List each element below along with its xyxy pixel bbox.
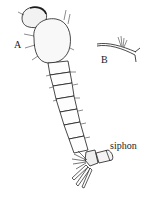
larva-illustration: [0, 0, 154, 204]
label-b: B: [101, 55, 108, 65]
abdominal-segment: [69, 136, 88, 153]
label-siphon: siphon: [110, 141, 137, 151]
larva-thorax: [34, 19, 71, 63]
label-a: A: [14, 40, 21, 50]
terminal-segment: [85, 150, 98, 166]
siphon: [96, 150, 113, 163]
anal-gills: [72, 165, 92, 188]
larva-body: [22, 7, 113, 188]
